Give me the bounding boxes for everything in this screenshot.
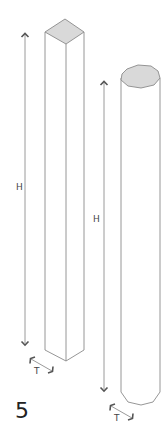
octagonal-post-thickness-label: T xyxy=(114,414,120,423)
square-post-height-label: H xyxy=(16,183,23,192)
square-post-top-cap xyxy=(45,19,84,44)
square-post xyxy=(45,19,84,361)
octagonal-post-height-label: H xyxy=(93,215,100,224)
square-post-bottom-edge xyxy=(45,350,84,361)
post-dimension-diagram xyxy=(0,0,168,442)
figure-number: 5 xyxy=(15,400,29,422)
octagonal-post-top-cap xyxy=(121,65,160,88)
octagonal-post-height-dimension xyxy=(101,82,108,392)
square-post-thickness-label: T xyxy=(34,367,40,376)
octagonal-post-bottom-edge xyxy=(121,392,160,405)
octagonal-post xyxy=(121,65,160,405)
